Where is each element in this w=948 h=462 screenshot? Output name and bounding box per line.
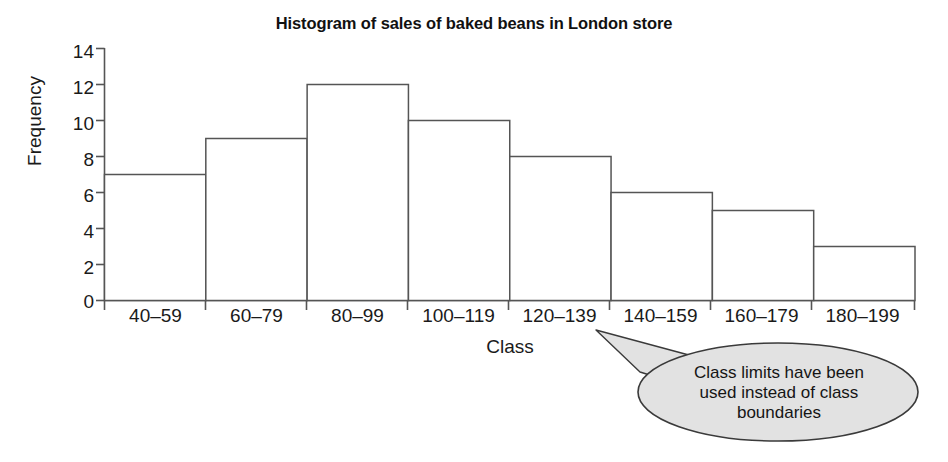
callout-text-line-3: boundaries (650, 403, 908, 423)
callout-text: Class limits have been used instead of c… (650, 363, 908, 423)
histogram-figure: Histogram of sales of baked beans in Lon… (0, 0, 948, 462)
callout-text-line-1: Class limits have been (650, 363, 908, 383)
callout-text-line-2: used instead of class (650, 383, 908, 403)
